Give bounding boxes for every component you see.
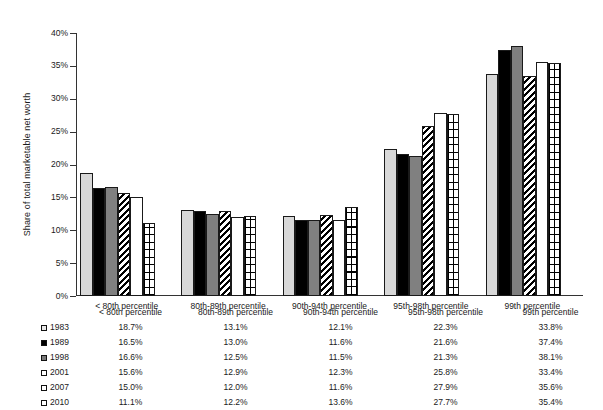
bar-2010--80th-percentile[interactable] <box>143 223 156 296</box>
bar-2010-95th-98th-percentile[interactable] <box>447 114 460 296</box>
data-table-head: < 80th percentile80th-89th percentile90t… <box>0 305 603 320</box>
chart-figure: Share of total marketable net worth 0%5%… <box>0 0 603 410</box>
legend-entry-1998: 1998 <box>0 350 78 365</box>
bar-group <box>181 33 256 296</box>
bar-group <box>486 33 561 296</box>
table-cell-value: 13.6% <box>288 395 393 410</box>
legend-swatch-icon <box>41 400 47 406</box>
y-axis-tick-label: 15% <box>44 193 68 202</box>
table-row: 200715.0%12.0%11.6%27.9%35.6% <box>0 380 603 395</box>
table-cell-value: 16.5% <box>78 335 183 350</box>
bar-group <box>384 33 459 296</box>
bar-2001-95th-98th-percentile[interactable] <box>422 126 435 296</box>
table-cell-value: 11.5% <box>288 350 393 365</box>
table-cell-value: 33.4% <box>498 365 603 380</box>
bar-2010-90th-94th-percentile[interactable] <box>345 207 358 296</box>
table-cell-value: 12.3% <box>288 365 393 380</box>
table-cell-value: 25.8% <box>393 365 498 380</box>
table-column-header: < 80th percentile <box>78 305 183 320</box>
bar-1998-95th-98th-percentile[interactable] <box>409 156 422 296</box>
y-axis-tick-label: 10% <box>44 226 68 235</box>
table-row: 201011.1%12.2%13.6%27.7%35.4% <box>0 395 603 410</box>
bar-1983-80th-89th-percentile[interactable] <box>181 210 194 296</box>
bar-group-bars <box>283 33 358 296</box>
data-table-body: 198318.7%13.1%12.1%22.3%33.8%198916.5%13… <box>0 320 603 410</box>
bar-2007-95th-98th-percentile[interactable] <box>434 113 447 296</box>
table-column-header: 99th percentile <box>498 305 603 320</box>
bar-2010-99th-percentile[interactable] <box>548 63 561 296</box>
y-axis-tick <box>70 197 76 198</box>
table-cell-value: 15.0% <box>78 380 183 395</box>
y-axis-title: Share of total marketable net worth <box>18 33 36 296</box>
y-axis-tick-label: 0% <box>44 292 68 301</box>
bar-1989-99th-percentile[interactable] <box>498 50 511 296</box>
bar-group <box>283 33 358 296</box>
bar-2007-99th-percentile[interactable] <box>536 62 549 296</box>
bar-2007--80th-percentile[interactable] <box>130 197 143 296</box>
legend-swatch-icon <box>41 355 47 361</box>
bar-1998-99th-percentile[interactable] <box>511 46 524 297</box>
table-header-blank <box>0 305 78 320</box>
table-row: 199816.6%12.5%11.5%21.3%38.1% <box>0 350 603 365</box>
bar-1989-95th-98th-percentile[interactable] <box>397 154 410 296</box>
y-axis-tick <box>70 99 76 100</box>
legend-swatch-icon <box>41 340 47 346</box>
bar-2001-90th-94th-percentile[interactable] <box>320 215 333 296</box>
table-cell-value: 21.3% <box>393 350 498 365</box>
y-axis-tick <box>70 66 76 67</box>
bar-1989-80th-89th-percentile[interactable] <box>194 211 207 296</box>
bar-1983-99th-percentile[interactable] <box>486 74 499 296</box>
bar-1983-90th-94th-percentile[interactable] <box>283 216 296 296</box>
bar-1983--80th-percentile[interactable] <box>80 173 93 296</box>
bar-1998-90th-94th-percentile[interactable] <box>308 220 321 296</box>
y-axis-tick <box>70 263 76 264</box>
legend-year-label: 2010 <box>50 397 69 407</box>
y-axis-tick <box>70 132 76 133</box>
y-axis-tick <box>70 230 76 231</box>
bar-2001-99th-percentile[interactable] <box>523 76 536 296</box>
bar-1998-80th-89th-percentile[interactable] <box>206 214 219 296</box>
bar-2007-90th-94th-percentile[interactable] <box>333 220 346 296</box>
bar-2007-80th-89th-percentile[interactable] <box>231 217 244 296</box>
table-row: 200115.6%12.9%12.3%25.8%33.4% <box>0 365 603 380</box>
y-axis-tick-label: 25% <box>44 127 68 136</box>
y-axis-line <box>76 33 77 296</box>
y-axis-tick <box>70 296 76 297</box>
table-cell-value: 12.0% <box>183 380 288 395</box>
table-cell-value: 12.5% <box>183 350 288 365</box>
bar-1989-90th-94th-percentile[interactable] <box>295 220 308 296</box>
legend-year-label: 1989 <box>50 337 69 347</box>
bar-1989--80th-percentile[interactable] <box>93 188 106 296</box>
data-table-element: < 80th percentile80th-89th percentile90t… <box>0 305 603 410</box>
table-cell-value: 11.6% <box>288 335 393 350</box>
legend-swatch-icon <box>41 325 47 331</box>
table-cell-value: 35.6% <box>498 380 603 395</box>
legend-entry-2007: 2007 <box>0 380 78 395</box>
y-axis-tick <box>70 33 76 34</box>
table-cell-value: 27.7% <box>393 395 498 410</box>
table-cell-value: 38.1% <box>498 350 603 365</box>
table-cell-value: 16.6% <box>78 350 183 365</box>
table-cell-value: 13.1% <box>183 320 288 335</box>
table-cell-value: 21.6% <box>393 335 498 350</box>
legend-year-label: 2007 <box>50 382 69 392</box>
table-cell-value: 12.9% <box>183 365 288 380</box>
y-axis-tick-label: 20% <box>44 160 68 169</box>
table-cell-value: 12.2% <box>183 395 288 410</box>
table-cell-value: 18.7% <box>78 320 183 335</box>
y-axis-tick-label: 35% <box>44 61 68 70</box>
bar-2010-80th-89th-percentile[interactable] <box>244 216 257 296</box>
bar-2001-80th-89th-percentile[interactable] <box>219 211 232 296</box>
bar-group <box>80 33 155 296</box>
legend-entry-2001: 2001 <box>0 365 78 380</box>
table-cell-value: 37.4% <box>498 335 603 350</box>
y-axis-tick-label: 30% <box>44 94 68 103</box>
bar-1998--80th-percentile[interactable] <box>105 187 118 296</box>
table-cell-value: 22.3% <box>393 320 498 335</box>
legend-year-label: 2001 <box>50 367 69 377</box>
table-column-header: 80th-89th percentile <box>183 305 288 320</box>
legend-year-label: 1983 <box>50 322 69 332</box>
bar-1983-95th-98th-percentile[interactable] <box>384 149 397 296</box>
bar-2001--80th-percentile[interactable] <box>118 193 131 296</box>
legend-entry-2010: 2010 <box>0 395 78 410</box>
